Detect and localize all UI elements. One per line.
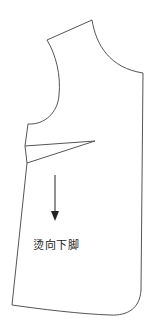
press-direction-label: 烫向下脚 xyxy=(33,236,79,252)
arrow-down-icon xyxy=(51,175,59,221)
bodice-outline xyxy=(12,20,143,315)
dart-lower-leg xyxy=(27,141,95,163)
dart-upper-leg xyxy=(25,141,95,146)
pattern-diagram xyxy=(0,0,157,325)
